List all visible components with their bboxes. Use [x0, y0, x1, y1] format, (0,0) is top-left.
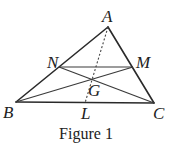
triangle-diagram: A B C N M G L Figure 1 [0, 0, 172, 146]
label-G: G [88, 81, 100, 100]
figure-caption: Figure 1 [59, 125, 113, 143]
label-C: C [153, 104, 165, 123]
label-A: A [101, 7, 113, 26]
segment-BC [16, 102, 154, 103]
label-N: N [46, 53, 60, 72]
label-M: M [135, 53, 151, 72]
label-L: L [80, 104, 90, 123]
label-B: B [3, 103, 14, 122]
